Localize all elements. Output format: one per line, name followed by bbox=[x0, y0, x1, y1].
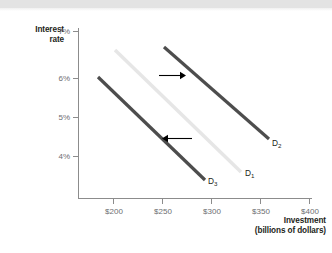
x-axis-title: Investment (billions of dollars) bbox=[146, 216, 326, 236]
curve-label-d1: D1 bbox=[245, 168, 255, 178]
curve-d3 bbox=[98, 77, 205, 180]
y-tick-label-4: 4% bbox=[46, 152, 70, 161]
x-tick-label-300: $300 bbox=[192, 207, 232, 216]
y-tick-label-6: 6% bbox=[46, 74, 70, 83]
x-tick-label-400: $400 bbox=[290, 207, 330, 216]
rightward-shift-arrow bbox=[159, 72, 186, 79]
curve-label-d3: D3 bbox=[208, 176, 218, 186]
curve-label-d2-sub: 2 bbox=[278, 142, 281, 149]
x-axis-title-line1: Investment bbox=[146, 216, 326, 226]
curve-label-d2: D2 bbox=[272, 138, 282, 148]
x-tick-label-350: $350 bbox=[241, 207, 281, 216]
curve-label-d3-sub: 3 bbox=[214, 180, 217, 187]
y-tick-label-7: 7% bbox=[46, 27, 70, 36]
leftward-shift-arrow bbox=[162, 135, 192, 142]
x-axis-title-line2: (billions of dollars) bbox=[146, 226, 326, 236]
y-tick-label-5: 5% bbox=[46, 113, 70, 122]
x-tick-label-250: $250 bbox=[143, 207, 183, 216]
investment-demand-chart: Interest rate Investment (billions of do… bbox=[0, 0, 332, 253]
curve-d2 bbox=[164, 47, 269, 139]
curve-label-d1-sub: 1 bbox=[251, 172, 254, 179]
x-tick-label-200: $200 bbox=[94, 207, 134, 216]
y-axis-title-line2: rate bbox=[8, 35, 64, 45]
